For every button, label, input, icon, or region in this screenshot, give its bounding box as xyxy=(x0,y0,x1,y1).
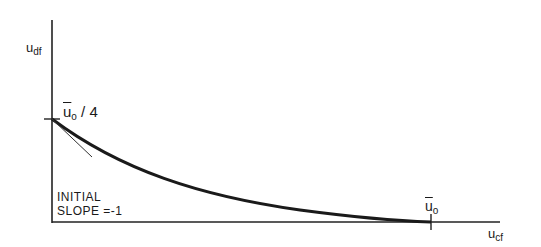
x-intercept-label-sub: o xyxy=(433,205,439,216)
y-intercept-label: uo / 4 xyxy=(63,103,98,122)
x-axis-label-sub: cf xyxy=(495,232,503,243)
annotation-line-2: SLOPE =-1 xyxy=(57,204,123,218)
y-intercept-label-suffix: / 4 xyxy=(77,103,98,120)
x-intercept-label-main: u xyxy=(425,198,433,214)
initial-slope-annotation: INITIAL SLOPE =-1 xyxy=(57,190,123,218)
x-axis-label: ucf xyxy=(488,226,503,243)
x-intercept-label: uo xyxy=(425,198,438,216)
y-axis-label-sub: df xyxy=(33,46,41,57)
initial-slope-line xyxy=(52,119,92,157)
y-axis-label: udf xyxy=(26,40,42,57)
annotation-line-1: INITIAL xyxy=(57,190,123,204)
